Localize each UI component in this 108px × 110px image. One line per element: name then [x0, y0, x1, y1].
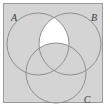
venn-diagram-canvas: A B C [0, 0, 108, 110]
set-label-C: C [84, 94, 91, 105]
set-label-B: B [91, 12, 97, 23]
venn-diagram-figure: A B C [0, 0, 108, 110]
set-label-A: A [10, 12, 18, 23]
